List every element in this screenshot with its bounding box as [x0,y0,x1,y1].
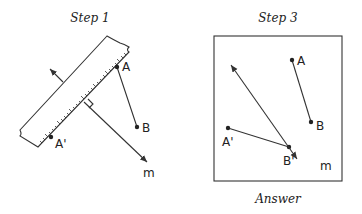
line-m [84,102,147,162]
label-a-prime: A' [222,135,234,149]
panel-step-1: Step 1 [20,11,155,180]
answer-caption: Answer [254,192,302,206]
panel-title: Step 3 [258,11,298,25]
point-a-prime [49,135,53,139]
segment-ab [292,60,311,122]
panel-step-3: Step 3 A B A' B' m Answer [214,11,342,206]
line-m-arrow-down [264,112,297,159]
slide-arrow-icon [50,69,63,82]
point-a-prime [226,126,230,130]
label-b: B [142,121,150,135]
line-m-arrow-up [231,65,264,112]
ruler-icon [20,36,129,147]
label-b-prime: B' [283,154,295,168]
point-a [290,58,294,62]
point-b [135,125,139,129]
reflection-diagram: Step 1 [0,0,362,214]
panel-title: Step 1 [70,11,109,25]
segment-a-prime-b-prime [228,128,289,147]
label-a: A [297,54,306,68]
label-m: m [143,166,155,180]
point-b [309,120,313,124]
label-a: A [122,60,131,74]
label-a-prime: A' [55,137,67,151]
segment-ab [117,67,137,127]
label-m: m [320,159,332,173]
point-a [115,65,119,69]
label-b: B [316,119,324,133]
